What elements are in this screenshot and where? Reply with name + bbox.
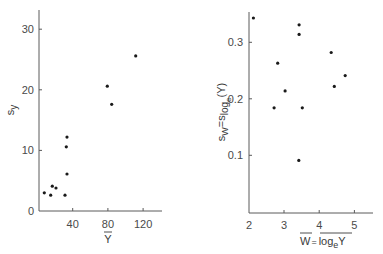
data-point xyxy=(63,194,66,197)
right-x-axis-label: W=logeY xyxy=(300,233,352,250)
data-point xyxy=(54,186,57,189)
data-point xyxy=(49,194,52,197)
svg-text:sy: sy xyxy=(4,105,19,116)
right-y-label-arg: (Y) xyxy=(215,83,227,98)
data-point xyxy=(298,23,301,26)
data-point xyxy=(333,85,336,88)
right-data-points xyxy=(252,16,347,162)
right-y-tick-0.1: 0.1 xyxy=(228,149,243,161)
right-scatter-plot: 0.1 0.2 0.3 2 3 4 5 W=logeY sW=sloge(Y) xyxy=(215,12,373,250)
data-point xyxy=(65,172,68,175)
data-point xyxy=(276,62,279,65)
left-y-tick-0: 0 xyxy=(28,205,34,217)
data-point xyxy=(273,106,276,109)
data-point xyxy=(297,159,300,162)
data-point xyxy=(344,74,347,77)
right-y-axis-label: sW=sloge(Y) xyxy=(215,83,233,141)
right-y-tick-0.3: 0.3 xyxy=(228,36,243,48)
data-point xyxy=(43,191,46,194)
data-point xyxy=(284,89,287,92)
right-x-label-y: Y xyxy=(338,235,346,247)
left-y-axis-label: sy xyxy=(4,105,19,116)
left-scatter-plot: 0 10 20 30 40 80 120 Y sy xyxy=(4,10,162,245)
left-x-axis-label: Y xyxy=(104,232,112,245)
left-data-points xyxy=(43,54,138,196)
left-x-tick-120: 120 xyxy=(134,218,152,230)
data-point xyxy=(65,136,68,139)
data-point xyxy=(330,51,333,54)
data-point xyxy=(252,16,255,19)
right-x-label-w: W xyxy=(300,235,311,247)
right-x-tick-4: 4 xyxy=(316,219,322,231)
data-point xyxy=(51,185,54,188)
left-x-tick-80: 80 xyxy=(102,218,114,230)
left-x-tick-40: 40 xyxy=(67,218,79,230)
right-y-label-eq: =s xyxy=(215,115,227,127)
svg-text:sW=sloge(Y): sW=sloge(Y) xyxy=(215,83,233,141)
data-point xyxy=(106,85,109,88)
data-point xyxy=(298,33,301,36)
left-x-label-text: Y xyxy=(104,233,112,245)
figure: 0 10 20 30 40 80 120 Y sy xyxy=(0,0,383,254)
data-point xyxy=(110,103,113,106)
right-x-label-log: log xyxy=(319,235,334,247)
data-point xyxy=(134,54,137,57)
right-x-label-eq: = xyxy=(311,237,316,247)
data-point xyxy=(301,106,304,109)
left-y-tick-20: 20 xyxy=(22,84,34,96)
data-point xyxy=(65,145,68,148)
svg-text:W=logeY: W=logeY xyxy=(300,235,346,250)
right-x-tick-2: 2 xyxy=(246,219,252,231)
right-x-tick-3: 3 xyxy=(281,219,287,231)
left-y-label-sub: y xyxy=(8,105,19,110)
right-x-tick-5: 5 xyxy=(351,219,357,231)
right-y-label-log: log xyxy=(219,102,230,115)
left-y-tick-30: 30 xyxy=(22,23,34,35)
left-y-tick-10: 10 xyxy=(22,144,34,156)
